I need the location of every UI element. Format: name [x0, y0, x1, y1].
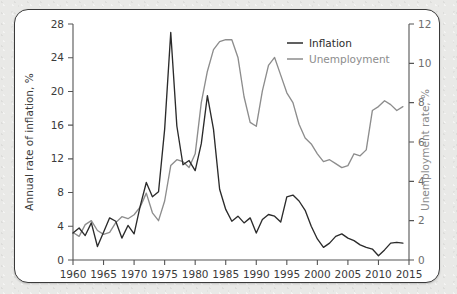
x-tick-label: 1995 — [273, 268, 300, 280]
x-tick-label: 2005 — [335, 268, 362, 280]
series-line-unemployment — [73, 40, 403, 237]
x-tick-label: 1965 — [90, 268, 117, 280]
legend-label-unemployment: Unemployment — [309, 53, 390, 65]
series-line-inflation — [73, 32, 403, 255]
legend-label-inflation: Inflation — [309, 37, 352, 49]
y-tick-label: 4 — [57, 220, 64, 232]
x-tick-label: 1990 — [243, 268, 270, 280]
x-tick-label: 2015 — [396, 268, 423, 280]
x-axis-ticks: 1960196519701975198019851990199520002005… — [60, 260, 423, 280]
y-tick-label: 16 — [51, 119, 65, 131]
y2-axis-title: Unemployment rate, % — [419, 89, 431, 211]
y-tick-label: 28 — [51, 18, 64, 30]
y2-tick-label: 2 — [418, 214, 425, 226]
y2-tick-label: 0 — [418, 254, 425, 266]
y-axis-title: Annual rate of inflation, % — [23, 73, 35, 210]
y-tick-label: 20 — [51, 85, 64, 97]
y-tick-label: 8 — [57, 186, 64, 198]
x-tick-label: 1975 — [151, 268, 178, 280]
x-tick-label: 2000 — [304, 268, 331, 280]
x-tick-label: 1960 — [60, 268, 87, 280]
y-tick-label: 0 — [57, 254, 64, 266]
chart-legend: Inflation Unemployment — [287, 37, 390, 65]
y2-tick-label: 10 — [418, 57, 431, 69]
chart-card: 0481216202428 024681012 1960196519701975… — [14, 9, 440, 283]
y2-tick-label: 12 — [418, 18, 431, 30]
x-tick-label: 1985 — [212, 268, 239, 280]
inflation-unemployment-line-chart: 0481216202428 024681012 1960196519701975… — [15, 10, 439, 282]
y-tick-label: 12 — [51, 152, 64, 164]
x-tick-label: 1970 — [121, 268, 148, 280]
x-tick-label: 1980 — [182, 268, 209, 280]
left-axis-ticks: 0481216202428 — [51, 18, 73, 266]
x-tick-label: 2010 — [365, 268, 392, 280]
y-tick-label: 24 — [51, 51, 65, 63]
